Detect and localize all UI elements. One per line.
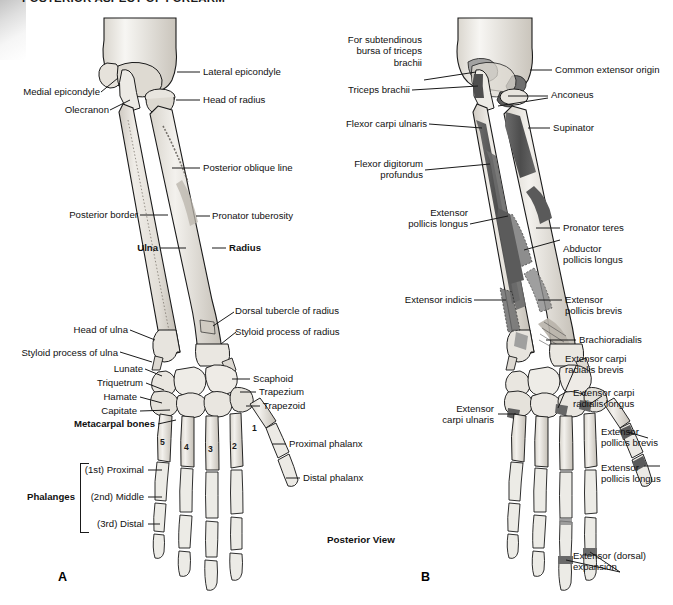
illustration-canvas: POSTERIOR ASPECT OF FOREARM	[0, 0, 673, 605]
label-flexor-digitorum-profundus: Flexor digitorum profundus	[330, 158, 423, 181]
label-pronator-teres: Pronator teres	[563, 222, 624, 233]
label-common-extensor-origin: Common extensor origin	[555, 64, 660, 75]
metacarpal-number-4: 4	[184, 442, 189, 452]
label-radius: Radius	[229, 242, 261, 253]
label-first-proximal: (1st) Proximal	[78, 464, 144, 475]
label-extensor-pollicis-brevis: Extensor pollicis brevis	[565, 294, 622, 317]
label-brachioradialis: Brachioradialis	[579, 334, 642, 345]
label-olecranon: Olecranon	[14, 104, 109, 115]
label-extensor-carpi-radialis-longus: Extensor carpi radialis longus	[573, 387, 634, 410]
label-trapezoid: Trapezoid	[263, 400, 305, 411]
label-extensor-pollicis-longus-thumb: Extensor pollicis longus	[601, 462, 661, 485]
label-styloid-process-of-radius: Styloid process of radius	[235, 326, 340, 337]
label-subtendinous-bursa-of-triceps-brachii: For subtendinous bursa of triceps brachi…	[330, 34, 422, 68]
label-extensor-pollicis-longus: Extensor pollicis longus	[380, 207, 468, 230]
label-pronator-tuberosity: Pronator tuberosity	[212, 210, 293, 221]
label-head-of-ulna: Head of ulna	[28, 324, 128, 335]
label-lateral-epicondyle: Lateral epicondyle	[203, 66, 281, 77]
label-ulna: Ulna	[96, 242, 158, 253]
panel-letter-a: A	[58, 570, 67, 584]
label-extensor-dorsal-expansion: Extensor (dorsal) expansion	[573, 550, 646, 573]
label-distal-phalanx: Distal phalanx	[303, 472, 363, 483]
label-triceps-brachii: Triceps brachii	[330, 84, 410, 95]
label-metacarpal-bones: Metacarpal bones	[28, 418, 155, 429]
label-supinator: Supinator	[553, 122, 594, 133]
label-scaphoid: Scaphoid	[253, 373, 293, 384]
metacarpal-number-2: 2	[232, 441, 237, 451]
label-anconeus: Anconeus	[551, 89, 594, 100]
label-extensor-carpi-radialis-brevis: Extensor carpi radialis brevis	[565, 353, 626, 376]
label-flexor-carpi-ulnaris: Flexor carpi ulnaris	[330, 118, 427, 129]
label-posterior-border: Posterior border	[28, 209, 138, 220]
label-lunate: Lunate	[63, 363, 143, 374]
label-second-middle: (2nd) Middle	[78, 491, 144, 502]
metacarpal-number-1: 1	[252, 423, 257, 433]
label-head-of-radius: Head of radius	[203, 94, 265, 105]
label-hamate: Hamate	[55, 391, 137, 402]
label-dorsal-tubercle-of-radius: Dorsal tubercle of radius	[235, 305, 339, 316]
label-triquetrum: Triquetrum	[48, 377, 143, 388]
label-capitate: Capitate	[55, 405, 137, 416]
metacarpal-number-3: 3	[208, 444, 213, 454]
label-proximal-phalanx: Proximal phalanx	[289, 438, 363, 449]
label-posterior-oblique-line: Posterior oblique line	[203, 162, 293, 173]
panel-b-artwork	[457, 18, 652, 590]
panel-letter-b: B	[421, 570, 430, 584]
label-extensor-carpi-ulnaris: Extensor carpi ulnaris	[404, 403, 494, 426]
label-abductor-pollicis-longus: Abductor pollicis longus	[563, 243, 623, 266]
label-phalanges: Phalanges	[10, 491, 75, 502]
label-medial-epicondyle: Medial epicondyle	[0, 86, 100, 97]
label-styloid-process-of-ulna: Styloid process of ulna	[8, 347, 118, 358]
label-third-distal: (3rd) Distal	[78, 518, 144, 529]
label-extensor-pollicis-brevis-thumb: Extensor pollicis brevis	[601, 426, 658, 449]
label-extensor-indicis: Extensor indicis	[378, 294, 472, 305]
posterior-view-label: Posterior View	[327, 534, 395, 545]
metacarpal-number-5: 5	[160, 437, 165, 447]
label-trapezium: Trapezium	[259, 386, 304, 397]
